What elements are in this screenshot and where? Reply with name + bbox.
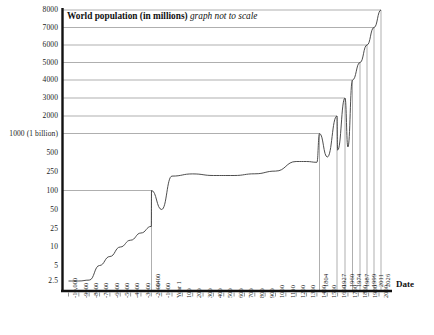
x-tick-label: 200 bbox=[195, 288, 202, 298]
y-tick-label: 500 bbox=[0, 148, 58, 157]
x-tick-label: 700 bbox=[247, 288, 254, 298]
y-tick-label: 5000 bbox=[0, 58, 58, 67]
x-tick-label: 1200 bbox=[299, 285, 306, 298]
x-tick-label: 900 bbox=[268, 288, 275, 298]
y-tick-label: 8000 bbox=[0, 5, 58, 14]
x-tick-label: 800 bbox=[258, 288, 265, 298]
milestone-label: -1400 bbox=[154, 274, 161, 289]
y-tick-label: 10 bbox=[0, 242, 58, 251]
milestone-droplines bbox=[152, 10, 382, 291]
y-tick-label: 2.5 bbox=[0, 276, 58, 285]
y-tick-label: 4000 bbox=[0, 75, 58, 84]
milestone-label: 1974 bbox=[355, 274, 362, 287]
x-tick-label: Year 1 bbox=[175, 281, 182, 298]
x-tick-label: -4000 bbox=[133, 283, 140, 298]
milestone-label: 2011 bbox=[377, 274, 384, 287]
x-tick-label: -10,000 bbox=[71, 278, 78, 298]
milestone-label: 1960 bbox=[348, 274, 355, 287]
population-curve bbox=[69, 10, 382, 281]
y-tick-label: 50 bbox=[0, 205, 58, 214]
y-tick-label: 100 bbox=[0, 186, 58, 195]
milestone-label: 1804 bbox=[322, 274, 329, 287]
y-tick-label: 1000 (1 billion) bbox=[0, 129, 58, 138]
x-tick-label: -6000 bbox=[113, 283, 120, 298]
x-tick-label: -1000 bbox=[164, 283, 171, 298]
x-tick-label: -3000 bbox=[144, 283, 151, 298]
y-tick-label: 5 bbox=[0, 261, 58, 270]
milestone-label: 1999 bbox=[370, 274, 377, 287]
chart-title-main: World population (in millions) bbox=[67, 11, 188, 21]
x-tick-label: -8000 bbox=[92, 283, 99, 298]
chart-title-note: graph not to scale bbox=[190, 11, 257, 21]
y-tick-label: 3000 bbox=[0, 93, 58, 102]
milestone-label: 1927 bbox=[340, 274, 347, 287]
chart-canvas: World population (in millions) graph not… bbox=[0, 0, 434, 335]
x-tick-label: -9000 bbox=[82, 283, 89, 298]
x-tick-label: 1000 bbox=[278, 285, 285, 298]
x-tick-label: 100 bbox=[185, 288, 192, 298]
x-tick-label: 600 bbox=[237, 288, 244, 298]
x-tick-label: 1300 bbox=[309, 285, 316, 298]
y-tick-label: 7000 bbox=[0, 23, 58, 32]
y-tick-label: 250 bbox=[0, 167, 58, 176]
y-tick-label: 6000 bbox=[0, 40, 58, 49]
gridlines bbox=[63, 10, 382, 191]
x-tick-label: -7000 bbox=[102, 283, 109, 298]
x-axis-title: Date bbox=[396, 279, 414, 289]
x-tick-label: -5000 bbox=[123, 283, 130, 298]
milestone-label: 2026 bbox=[384, 274, 391, 287]
x-tick-label: 1500 bbox=[330, 285, 337, 298]
y-tick-label: 2000 bbox=[0, 111, 58, 120]
x-tick-label: 1100 bbox=[289, 285, 296, 298]
x-tick-label: 400 bbox=[216, 288, 223, 298]
milestone-label: 1987 bbox=[363, 274, 370, 287]
x-tick-label: 300 bbox=[206, 288, 213, 298]
chart-title: World population (in millions) graph not… bbox=[67, 11, 257, 21]
y-tick-label: 25 bbox=[0, 224, 58, 233]
x-tick-label: 500 bbox=[226, 288, 233, 298]
